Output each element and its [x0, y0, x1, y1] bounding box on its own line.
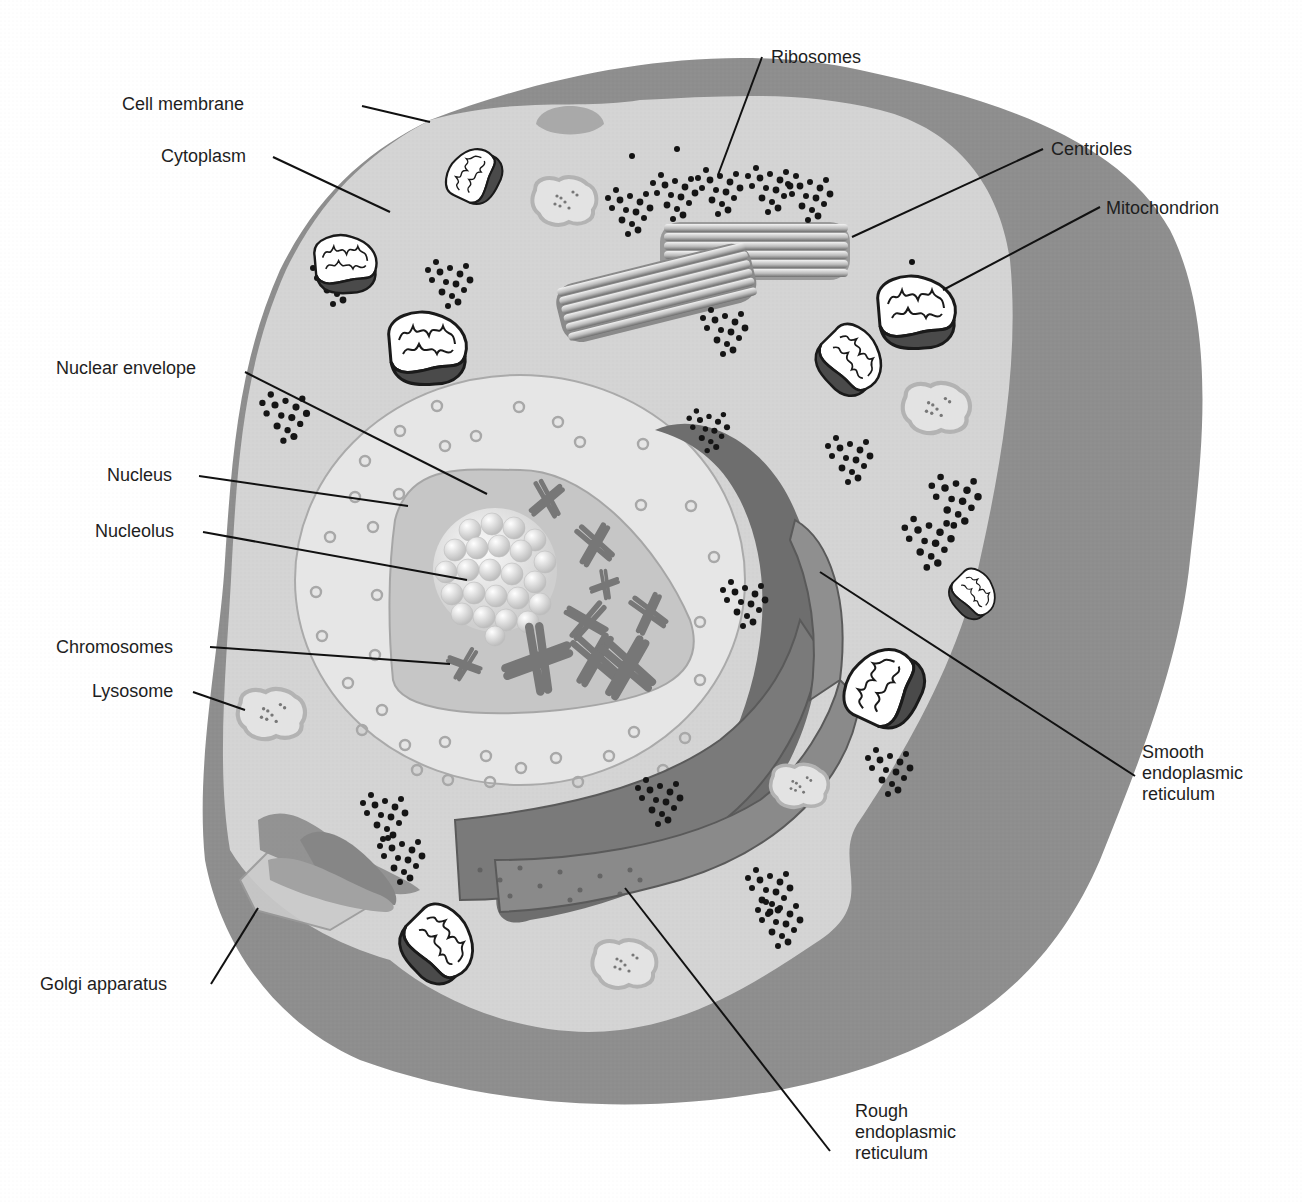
- label-nucleolus: Nucleolus: [95, 521, 174, 541]
- label-cell-membrane: Cell membrane: [122, 94, 244, 114]
- label-ribosomes: Ribosomes: [771, 47, 861, 67]
- label-nucleus: Nucleus: [107, 465, 172, 485]
- animal-cell-diagram: Cell membrane Cytoplasm Ribosomes Centri…: [0, 0, 1304, 1202]
- label-mitochondrion: Mitochondrion: [1106, 198, 1219, 218]
- label-nuclear-envelope: Nuclear envelope: [56, 358, 196, 378]
- label-chromosomes: Chromosomes: [56, 637, 173, 657]
- label-golgi-apparatus: Golgi apparatus: [40, 974, 167, 994]
- label-cytoplasm: Cytoplasm: [161, 146, 246, 166]
- label-smooth-er: Smooth endoplasmic reticulum: [1142, 742, 1248, 804]
- label-centrioles: Centrioles: [1051, 139, 1132, 159]
- label-rough-er: Rough endoplasmic reticulum: [855, 1101, 961, 1163]
- label-lysosome: Lysosome: [92, 681, 173, 701]
